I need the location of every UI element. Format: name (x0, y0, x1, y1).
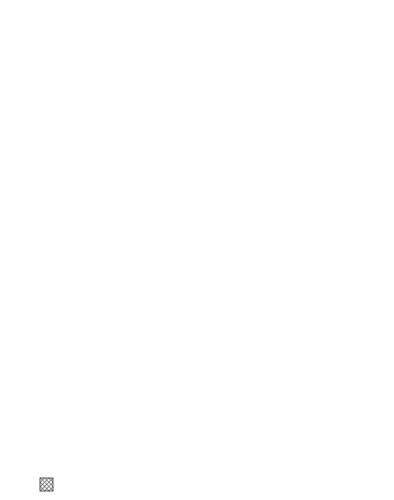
legend (40, 478, 53, 491)
figure-canvas (0, 0, 394, 500)
figure-aurora-occurrence-histograms (0, 0, 394, 500)
crosshatch-swatch (40, 478, 53, 491)
